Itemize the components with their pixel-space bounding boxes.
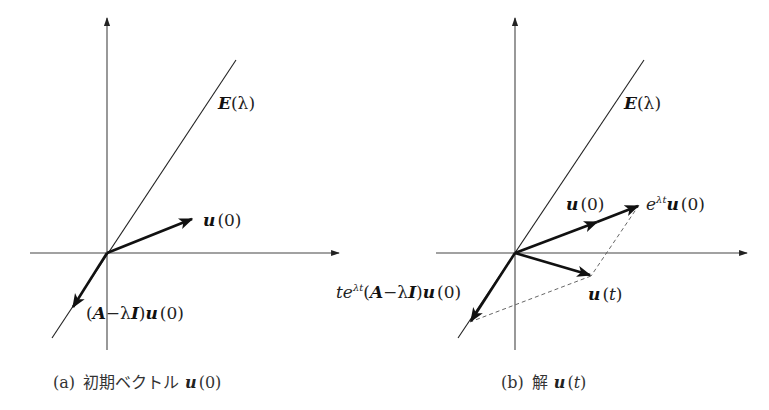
parallelogram-edge-bottom bbox=[470, 276, 591, 322]
generalized-vector bbox=[73, 253, 107, 307]
initial-vector-u0 bbox=[515, 222, 597, 253]
eigenspace-label: E(λ) bbox=[217, 93, 255, 113]
ut-label: u(t) bbox=[588, 284, 623, 304]
solution-vector-ut bbox=[515, 253, 590, 275]
generalized-term-vector bbox=[471, 253, 515, 321]
u0-label: u(0) bbox=[566, 194, 604, 214]
exp-u0-label: eλtu(0) bbox=[646, 194, 705, 214]
generalized-term-label: teλt(A−λI)u(0) bbox=[336, 282, 461, 302]
u0-label: u(0) bbox=[203, 210, 241, 230]
panel-a: E(λ) u(0) (A−λI)u(0) (a)初期ベクトルu(0) bbox=[30, 18, 339, 392]
caption-b: (b)解u(t) bbox=[501, 373, 586, 392]
caption-a: (a)初期ベクトルu(0) bbox=[53, 373, 221, 392]
generalized-vector-label: (A−λI)u(0) bbox=[86, 303, 184, 323]
generalized-eigenvector-diagram: E(λ) u(0) (A−λI)u(0) (a)初期ベクトルu(0) E(λ) … bbox=[0, 0, 769, 410]
eigenspace-label: E(λ) bbox=[623, 93, 661, 113]
panel-b: E(λ) u(0) eλtu(0) u(t) teλt(A−λI)u(0) (b… bbox=[336, 18, 747, 392]
